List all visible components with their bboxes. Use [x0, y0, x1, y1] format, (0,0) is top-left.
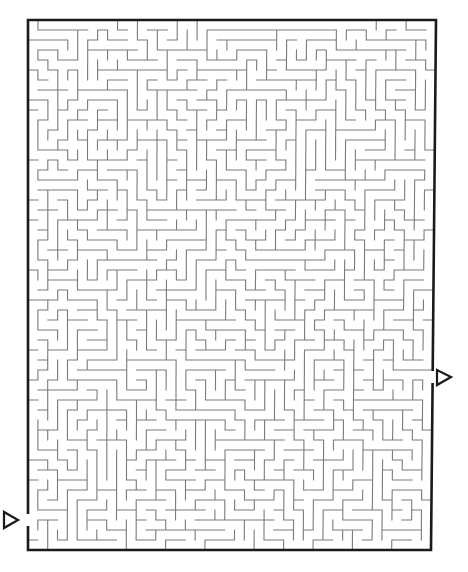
entrance-arrow-icon — [4, 512, 18, 528]
maze — [0, 0, 468, 572]
exit-arrow-icon — [437, 370, 451, 385]
maze-inner-walls — [28, 20, 436, 550]
maze-walls — [28, 20, 436, 550]
